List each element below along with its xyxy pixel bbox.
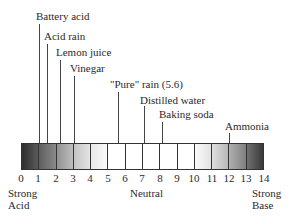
leader-baking-soda <box>162 122 163 143</box>
label-baking-soda: Baking soda <box>159 108 214 120</box>
label-ammonia: Ammonia <box>225 120 269 132</box>
ph-cell-6 <box>126 144 143 169</box>
ph-cell-3 <box>74 144 91 169</box>
label-vinegar: Vinegar <box>70 62 105 74</box>
ph-cell-13 <box>247 144 263 169</box>
strong-acid-label-line1: Strong <box>8 187 37 199</box>
tick-4: 4 <box>80 172 100 184</box>
tick-1: 1 <box>28 172 48 184</box>
leader-distilled-water <box>144 106 145 143</box>
label-pure-rain: "Pure" rain (5.6) <box>110 78 183 90</box>
label-distilled-water: Distilled water <box>140 94 205 106</box>
ph-cell-1 <box>39 144 56 169</box>
tick-10: 10 <box>184 172 204 184</box>
strong-base-label-line1: Strong <box>252 187 281 199</box>
strong-base-label-line2: Base <box>252 199 273 211</box>
ph-cell-9 <box>178 144 195 169</box>
leader-acid-rain <box>47 44 48 143</box>
tick-13: 13 <box>236 172 256 184</box>
ph-cell-12 <box>229 144 246 169</box>
ph-cell-2 <box>57 144 74 169</box>
ph-cell-10 <box>195 144 212 169</box>
leader-battery-acid <box>39 24 40 143</box>
leader-ammonia <box>229 133 230 143</box>
leader-pure-rain <box>118 92 119 143</box>
label-acid-rain: Acid rain <box>44 30 85 42</box>
ph-cell-7 <box>143 144 160 169</box>
ph-cell-11 <box>212 144 229 169</box>
leader-vinegar <box>74 76 75 143</box>
ph-cell-4 <box>91 144 108 169</box>
ph-scale-bar <box>21 143 264 170</box>
ph-cell-8 <box>160 144 177 169</box>
label-lemon-juice: Lemon juice <box>56 46 111 58</box>
leader-lemon-juice <box>60 60 61 143</box>
tick-14: 14 <box>254 172 274 184</box>
label-battery-acid: Battery acid <box>36 10 89 22</box>
ph-cell-0 <box>22 144 39 169</box>
neutral-label: Neutral <box>130 187 163 199</box>
strong-acid-label-line2: Acid <box>8 199 29 211</box>
ph-cell-5 <box>108 144 125 169</box>
tick-7: 7 <box>132 172 152 184</box>
